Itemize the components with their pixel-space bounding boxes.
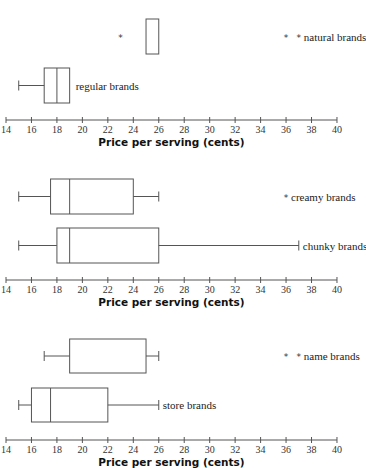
x-tick-label: 40	[332, 124, 342, 135]
x-tick-label: 34	[256, 284, 266, 295]
boxplot-panel-1: 1416182022242628303234363840Price per se…	[1, 19, 366, 148]
x-tick-label: 40	[332, 284, 342, 295]
boxplot-svg: 1416182022242628303234363840Price per se…	[0, 0, 366, 468]
x-tick-label: 20	[77, 124, 87, 135]
x-tick-label: 14	[1, 284, 11, 295]
x-axis-title: Price per serving (cents)	[98, 136, 244, 148]
box-rect	[57, 228, 159, 263]
box-store-brands: store brands	[19, 388, 216, 422]
x-tick-label: 24	[128, 124, 138, 135]
x-tick-label: 18	[52, 444, 62, 455]
x-tick-label: 16	[26, 124, 36, 135]
series-label: name brands	[304, 350, 360, 362]
series-label: creamy brands	[291, 191, 355, 203]
x-tick-label: 24	[128, 444, 138, 455]
x-tick-label: 32	[230, 444, 240, 455]
x-tick-label: 32	[230, 124, 240, 135]
series-label: regular brands	[76, 80, 139, 92]
x-tick-label: 16	[26, 444, 36, 455]
outlier-marker: *	[118, 33, 123, 43]
box-rect	[146, 19, 159, 54]
boxplot-panel-3: 1416182022242628303234363840Price per se…	[1, 339, 360, 468]
x-tick-label: 34	[256, 444, 266, 455]
x-tick-label: 22	[103, 444, 113, 455]
x-tick-label: 26	[154, 444, 164, 455]
x-tick-label: 22	[103, 124, 113, 135]
x-tick-label: 28	[179, 124, 189, 135]
outlier-marker: *	[297, 352, 302, 362]
x-tick-label: 30	[205, 444, 215, 455]
box-chunky-brands: chunky brands	[19, 228, 366, 263]
box-name-brands: **name brands	[44, 339, 360, 373]
x-tick-label: 16	[26, 284, 36, 295]
x-tick-label: 14	[1, 444, 11, 455]
x-tick-label: 26	[154, 284, 164, 295]
box-rect	[51, 179, 134, 214]
outlier-marker: *	[284, 193, 289, 203]
boxplot-figure: 1416182022242628303234363840Price per se…	[0, 0, 366, 468]
series-label: chunky brands	[303, 240, 366, 252]
x-tick-label: 22	[103, 284, 113, 295]
outlier-marker: *	[284, 352, 289, 362]
x-tick-label: 36	[281, 124, 291, 135]
x-tick-label: 38	[307, 284, 317, 295]
x-tick-label: 26	[154, 124, 164, 135]
boxplot-panel-2: 1416182022242628303234363840Price per se…	[1, 179, 366, 308]
x-tick-label: 36	[281, 444, 291, 455]
x-tick-label: 14	[1, 124, 11, 135]
x-tick-label: 30	[205, 124, 215, 135]
box-rect	[70, 339, 146, 373]
outlier-marker: *	[297, 33, 302, 43]
series-label: store brands	[163, 399, 216, 411]
box-creamy-brands: *creamy brands	[19, 179, 356, 214]
x-tick-label: 38	[307, 124, 317, 135]
series-label: natural brands	[304, 31, 366, 43]
x-tick-label: 38	[307, 444, 317, 455]
x-axis-title: Price per serving (cents)	[98, 296, 244, 308]
x-tick-label: 24	[128, 284, 138, 295]
x-tick-label: 40	[332, 444, 342, 455]
x-tick-label: 34	[256, 124, 266, 135]
x-tick-label: 18	[52, 284, 62, 295]
x-tick-label: 32	[230, 284, 240, 295]
x-tick-label: 36	[281, 284, 291, 295]
box-natural-brands: ***natural brands	[118, 19, 366, 54]
box-rect	[31, 388, 107, 422]
x-tick-label: 30	[205, 284, 215, 295]
x-tick-label: 20	[77, 444, 87, 455]
x-tick-label: 28	[179, 284, 189, 295]
x-axis-title: Price per serving (cents)	[98, 456, 244, 468]
box-regular-brands: regular brands	[19, 68, 139, 103]
x-tick-label: 20	[77, 284, 87, 295]
outlier-marker: *	[284, 33, 289, 43]
x-tick-label: 28	[179, 444, 189, 455]
x-tick-label: 18	[52, 124, 62, 135]
